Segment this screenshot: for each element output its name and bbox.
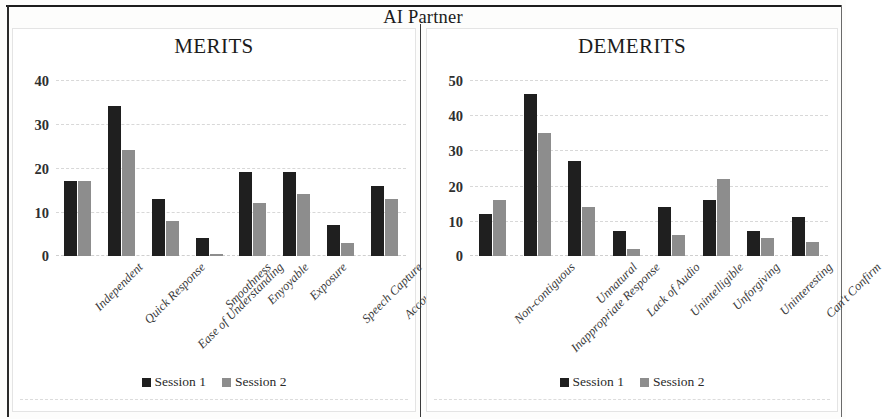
- bar-session-2: [78, 181, 91, 256]
- bar-session-1: [658, 207, 671, 256]
- bar-session-1: [703, 200, 716, 256]
- legend-swatch-icon-session-1: [142, 378, 151, 387]
- bar-session-1: [479, 214, 492, 256]
- bar-groups-demerits: [470, 80, 828, 256]
- x-label-slot: Can't Confirm: [783, 258, 828, 378]
- x-label-slot: Independent: [56, 258, 100, 378]
- legend-swatch-icon-session-2: [640, 378, 649, 387]
- bar-group: [739, 80, 784, 256]
- bar-session-2: [761, 238, 774, 256]
- bar-session-1: [196, 238, 209, 256]
- legend-separator: [20, 399, 408, 400]
- x-label-slot: Smoothness: [187, 258, 231, 378]
- bar-session-2: [717, 179, 730, 256]
- x-label-slot: Inappropriate Response: [515, 258, 560, 378]
- bar-session-1: [568, 161, 581, 256]
- legend-label-session-1: Session 1: [155, 374, 206, 390]
- bar-session-2: [341, 243, 354, 256]
- x-axis-labels-demerits: Non-contiguousInappropriate ResponseUnna…: [470, 258, 828, 378]
- bar-session-1: [64, 181, 77, 256]
- x-axis-labels-merits: IndependentQuick ResponseEase of Underst…: [56, 258, 406, 378]
- bar-session-2: [493, 200, 506, 256]
- bar-group: [144, 80, 188, 256]
- bar-session-1: [239, 172, 252, 256]
- bar-group: [694, 80, 739, 256]
- y-axis-tick-label: 40: [35, 73, 50, 90]
- bar-session-1: [524, 94, 537, 256]
- legend-label-session-2: Session 2: [653, 374, 704, 390]
- bar-group: [275, 80, 319, 256]
- x-label-slot: Uninteresting: [739, 258, 784, 378]
- x-label-slot: Exposure: [275, 258, 319, 378]
- bar-session-2: [210, 254, 223, 256]
- page-title: AI Partner: [0, 7, 846, 28]
- y-axis-tick-label: 0: [456, 248, 463, 265]
- bar-session-1: [327, 225, 340, 256]
- legend-item-session-1: Session 1: [142, 374, 206, 390]
- bar-session-1: [747, 231, 760, 256]
- chart-panel-merits: MERITS 010203040 IndependentQuick Respon…: [12, 28, 416, 412]
- legend-separator: [434, 399, 830, 400]
- chart-title-merits: MERITS: [12, 34, 416, 59]
- bar-session-1: [283, 172, 296, 256]
- x-label-slot: Unnatural: [560, 258, 605, 378]
- bar-session-1: [108, 106, 121, 256]
- bar-session-2: [122, 150, 135, 256]
- legend-label-session-1: Session 1: [573, 374, 624, 390]
- plot-area-merits: 010203040: [56, 80, 406, 256]
- bar-groups-merits: [56, 80, 406, 256]
- legend-item-session-2: Session 2: [640, 374, 704, 390]
- bar-group: [231, 80, 275, 256]
- legend-label-session-2: Session 2: [235, 374, 286, 390]
- bar-session-2: [253, 203, 266, 256]
- chart-panel-demerits: DEMERITS 01020304050 Non-contiguousInapp…: [426, 28, 838, 412]
- y-axis-tick-label: 10: [35, 205, 50, 222]
- bar-session-2: [385, 199, 398, 256]
- legend-merits: Session 1 Session 2: [12, 374, 416, 390]
- y-axis-tick-label: 0: [42, 248, 49, 265]
- y-axis-tick-label: 50: [449, 73, 464, 90]
- plot-area-demerits: 01020304050: [470, 80, 828, 256]
- y-axis-tick-label: 20: [35, 161, 50, 178]
- bar-group: [604, 80, 649, 256]
- legend-swatch-icon-session-1: [560, 378, 569, 387]
- bar-session-2: [806, 242, 819, 256]
- legend-demerits: Session 1 Session 2: [426, 374, 838, 390]
- x-label-slot: Unforgiving: [694, 258, 739, 378]
- x-label-slot: Unintelligible: [649, 258, 694, 378]
- bar-session-1: [371, 186, 384, 256]
- bar-group: [649, 80, 694, 256]
- bar-group: [319, 80, 363, 256]
- panel-divider-rule: [420, 24, 421, 417]
- bar-session-2: [672, 235, 685, 256]
- frame-right-rule: [841, 5, 842, 417]
- x-label-slot: Quick Response: [100, 258, 144, 378]
- bar-group: [100, 80, 144, 256]
- bar-session-1: [152, 199, 165, 256]
- bar-session-1: [613, 231, 626, 256]
- legend-swatch-icon-session-2: [222, 378, 231, 387]
- frame-left-rule: [7, 5, 9, 417]
- chart-title-demerits: DEMERITS: [426, 34, 838, 59]
- legend-item-session-1: Session 1: [560, 374, 624, 390]
- legend-item-session-2: Session 2: [222, 374, 286, 390]
- bar-group: [560, 80, 605, 256]
- bar-session-2: [627, 249, 640, 256]
- bar-group: [362, 80, 406, 256]
- y-axis-tick-label: 40: [449, 108, 464, 125]
- x-label-slot: Non-contiguous: [470, 258, 515, 378]
- x-label-slot: Ease of Understanding: [144, 258, 188, 378]
- bar-group: [470, 80, 515, 256]
- y-axis-tick-label: 30: [449, 143, 464, 160]
- y-axis-tick-label: 10: [449, 213, 464, 230]
- bar-session-2: [582, 207, 595, 256]
- bar-session-2: [166, 221, 179, 256]
- x-label-slot: Enyoyable: [231, 258, 275, 378]
- x-label-slot: Accountability: [362, 258, 406, 378]
- bar-group: [783, 80, 828, 256]
- bar-session-2: [297, 194, 310, 256]
- bar-group: [56, 80, 100, 256]
- x-label-slot: Lack of Audio: [604, 258, 649, 378]
- bar-session-1: [792, 217, 805, 256]
